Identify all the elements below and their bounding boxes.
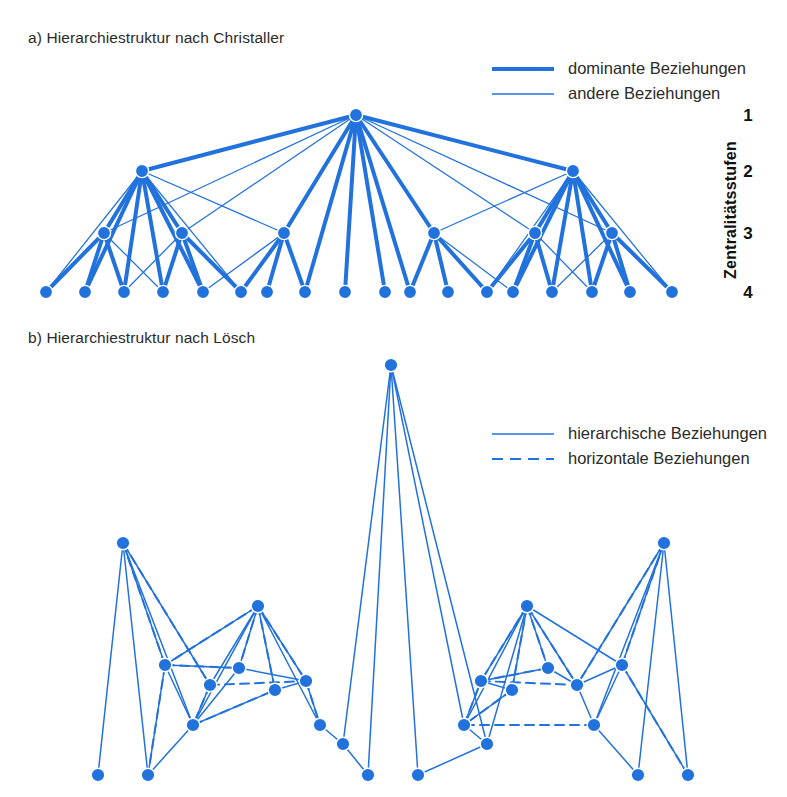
diagram-node — [298, 285, 311, 298]
other-relation-edge — [203, 233, 284, 292]
diagram-node — [615, 658, 629, 672]
diagram-node — [570, 678, 584, 692]
diagram-node — [427, 226, 440, 239]
hierarchical-relation-edge — [391, 365, 464, 725]
panel-a-dominant-edges — [46, 115, 672, 292]
diagram-node — [336, 737, 350, 751]
diagram-node — [175, 226, 188, 239]
hierarchical-relation-edge — [368, 365, 391, 775]
diagram-node — [186, 718, 200, 732]
dominant-relation-edge — [142, 115, 356, 171]
hierarchical-relation-edge — [391, 365, 487, 744]
hierarchical-relation-edge — [594, 665, 622, 725]
diagram-node — [681, 768, 695, 782]
diagram-node — [403, 285, 416, 298]
panel-b-hierarchical-edges — [98, 365, 688, 775]
diagram-node — [528, 226, 541, 239]
diagram-node — [457, 718, 471, 732]
hierarchical-relation-edge — [98, 543, 123, 775]
other-relation-edge — [142, 171, 241, 292]
diagram-node — [91, 768, 105, 782]
panel-b-network-diagram — [0, 337, 787, 797]
diagram-node — [566, 164, 579, 177]
diagram-node — [623, 285, 636, 298]
diagram-node — [156, 285, 169, 298]
hierarchical-relation-edge — [391, 365, 418, 775]
dominant-relation-edge — [356, 115, 385, 292]
diagram-node — [480, 285, 493, 298]
hierarchical-relation-edge — [193, 606, 258, 725]
diagram-node — [117, 285, 130, 298]
diagram-node — [585, 285, 598, 298]
diagram-node — [78, 285, 91, 298]
other-relation-edge — [182, 115, 356, 233]
diagram-node — [505, 683, 519, 697]
dominant-relation-edge — [284, 233, 305, 292]
hierarchical-relation-edge — [487, 606, 527, 744]
diagram-node — [141, 768, 155, 782]
diagram-node — [203, 678, 217, 692]
hierarchical-relation-edge — [258, 606, 320, 725]
diagram-node — [313, 718, 327, 732]
diagram-node — [441, 285, 454, 298]
diagram-node — [97, 226, 110, 239]
diagram-node — [135, 164, 148, 177]
diagram-node — [384, 358, 398, 372]
diagram-node — [196, 285, 209, 298]
diagram-node — [251, 599, 265, 613]
hierarchical-relation-edge — [343, 365, 391, 744]
diagram-node — [541, 661, 555, 675]
diagram-node — [474, 674, 488, 688]
dominant-relation-edge — [513, 233, 535, 292]
diagram-node — [520, 599, 534, 613]
diagram-node — [260, 285, 273, 298]
diagram-node — [277, 226, 290, 239]
dominant-relation-edge — [356, 115, 410, 292]
diagram-node — [338, 285, 351, 298]
diagram-node — [158, 658, 172, 672]
diagram-node — [411, 768, 425, 782]
dominant-relation-edge — [592, 233, 612, 292]
diagram-node — [232, 661, 246, 675]
diagram-node — [378, 285, 391, 298]
other-relation-edge — [356, 115, 535, 233]
diagram-node — [268, 683, 282, 697]
diagram-node — [631, 768, 645, 782]
hierarchical-relation-edge — [165, 665, 193, 725]
diagram-node — [361, 768, 375, 782]
diagram-node — [545, 285, 558, 298]
diagram-node — [506, 285, 519, 298]
diagram-node — [299, 674, 313, 688]
panel-a-tree-diagram — [0, 0, 787, 330]
diagram-node — [234, 285, 247, 298]
diagram-node — [665, 285, 678, 298]
dominant-relation-edge — [104, 233, 124, 292]
hierarchical-relation-edge — [464, 606, 527, 725]
dominant-relation-edge — [410, 233, 434, 292]
diagram-node — [605, 226, 618, 239]
diagram-node — [657, 536, 671, 550]
diagram-node — [116, 536, 130, 550]
diagram-node — [39, 285, 52, 298]
hierarchical-relation-edge — [594, 725, 638, 775]
diagram-node — [587, 718, 601, 732]
diagram-node — [349, 108, 362, 121]
panel-b-nodes — [91, 358, 695, 782]
hierarchical-relation-edge — [418, 744, 487, 775]
diagram-node — [480, 737, 494, 751]
